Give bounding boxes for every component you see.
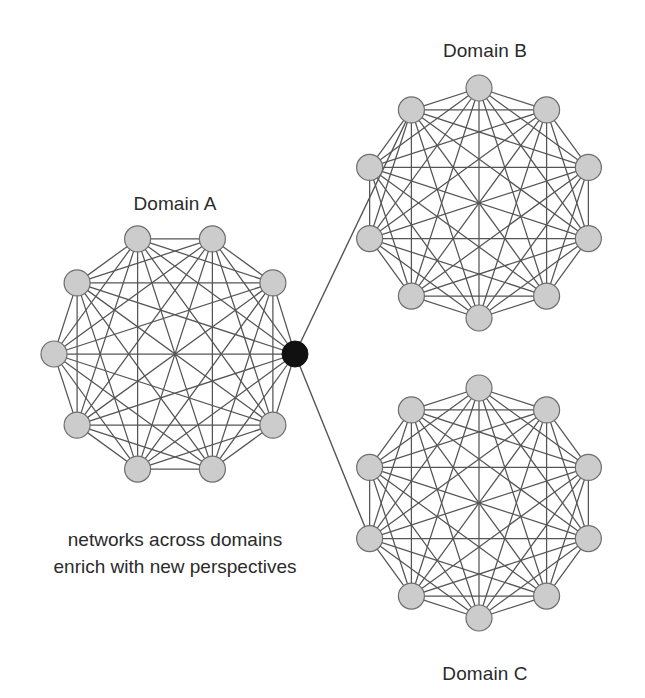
network-node-a-5 [41, 341, 67, 367]
network-node-c-2 [466, 605, 492, 631]
graph-edge [479, 110, 547, 318]
graph-edge [212, 239, 273, 425]
graph-edge [479, 388, 588, 467]
network-node-c-9 [575, 454, 601, 480]
graph-edge [479, 410, 547, 618]
network-node-a-4 [64, 412, 90, 438]
network-node-c-8 [534, 397, 560, 423]
domain-c-label: Domain C [442, 663, 527, 685]
network-node-a-3 [125, 456, 151, 482]
network-node-c-0 [575, 526, 601, 552]
caption-line-2: enrich with new perspectives [54, 554, 297, 581]
network-node-a-2 [199, 456, 225, 482]
network-node-c-5 [357, 454, 383, 480]
network-node-b-8 [534, 97, 560, 123]
diagram-canvas: Domain A Domain B Domain C networks acro… [0, 0, 645, 698]
network-node-b-0 [575, 226, 601, 252]
network-node-b-9 [575, 154, 601, 180]
network-node-a-6 [64, 270, 90, 296]
graph-edge [411, 167, 588, 296]
network-node-b-7 [466, 75, 492, 101]
graph-edge [411, 88, 479, 296]
graph-edge [138, 283, 273, 469]
network-node-c-3 [398, 583, 424, 609]
graph-edge [77, 239, 138, 425]
network-graph [0, 0, 645, 698]
bridge-edges-layer [295, 110, 411, 539]
graph-edge [370, 110, 547, 239]
domain-b-label: Domain B [443, 40, 527, 62]
network-node-b-3 [398, 283, 424, 309]
network-node-c-6 [398, 397, 424, 423]
bridge-edge [295, 110, 411, 354]
network-node-c-7 [466, 375, 492, 401]
graph-edge [411, 388, 479, 596]
caption-line-1: networks across domains [54, 527, 297, 554]
bridge-hub-node [282, 341, 308, 367]
network-node-b-2 [466, 305, 492, 331]
graph-edge [54, 283, 273, 354]
graph-edge [77, 239, 212, 425]
caption-text: networks across domains enrich with new … [54, 527, 297, 581]
graph-edge [77, 283, 138, 469]
network-node-c-4 [357, 526, 383, 552]
network-node-c-1 [534, 583, 560, 609]
network-node-a-9 [260, 270, 286, 296]
network-node-a-8 [199, 226, 225, 252]
network-node-a-1 [260, 412, 286, 438]
graph-edge [479, 88, 588, 167]
network-node-b-5 [357, 154, 383, 180]
graph-edge [54, 239, 138, 354]
graph-edge [411, 467, 588, 596]
graph-edge [411, 410, 588, 468]
network-node-b-1 [534, 283, 560, 309]
graph-edge [370, 88, 479, 167]
network-node-b-4 [357, 226, 383, 252]
graph-edge [212, 283, 273, 469]
domain-a-label: Domain A [133, 193, 216, 215]
network-node-b-6 [398, 97, 424, 123]
bridge-edge [295, 354, 370, 539]
graph-edge [370, 388, 479, 467]
graph-edge [411, 110, 588, 168]
graph-edge [370, 410, 547, 539]
network-node-a-7 [125, 226, 151, 252]
